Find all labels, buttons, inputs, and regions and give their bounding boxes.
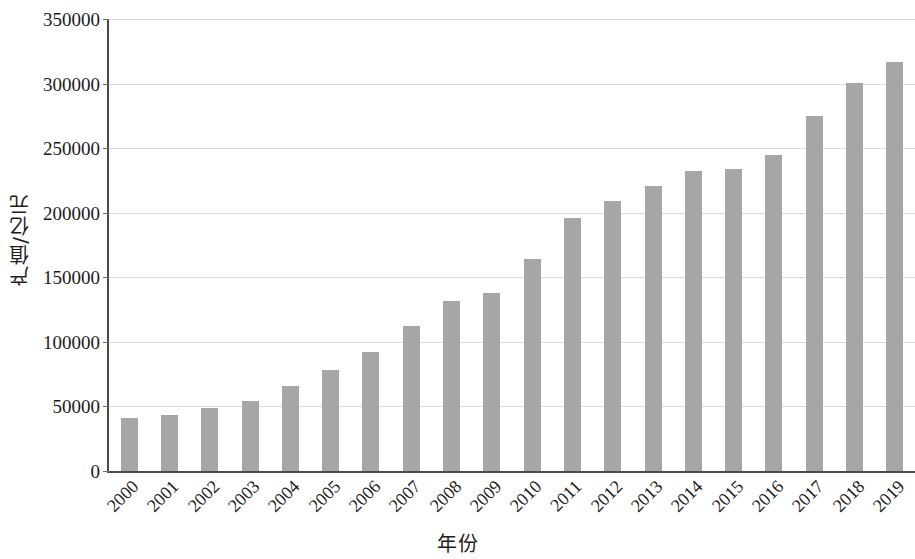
bar (886, 62, 903, 471)
x-axis-tick-label: 2017 (780, 477, 827, 524)
bar (524, 259, 541, 471)
bar (362, 352, 379, 471)
bar (201, 408, 218, 471)
bar (645, 186, 662, 471)
bar (846, 83, 863, 471)
bar (161, 415, 178, 471)
bar (806, 116, 823, 471)
x-axis-tick-label: 2011 (538, 477, 585, 524)
x-axis-tick-label: 2006 (337, 477, 384, 524)
x-axis-tick-label: 2019 (861, 477, 908, 524)
y-axis-tick-label: 50000 (53, 397, 101, 416)
bar (282, 386, 299, 471)
x-axis-tick-label: 2008 (418, 477, 465, 524)
x-axis-tick-label: 2000 (95, 477, 142, 524)
y-axis-tick-label: 100000 (43, 332, 100, 351)
x-axis-tick-labels: 2000200120022003200420052006200720082009… (107, 473, 913, 533)
bar-chart: 产值/亿元 0500001000001500002000002500003000… (0, 0, 915, 559)
y-axis-tick-mark (103, 471, 109, 472)
x-axis-tick-label: 2012 (579, 477, 626, 524)
y-axis-tick-label: 0 (91, 462, 101, 481)
x-axis-tick-label: 2018 (821, 477, 868, 524)
y-axis-tick-label: 150000 (43, 268, 100, 287)
bar (322, 370, 339, 471)
x-axis-tick-label: 2007 (377, 477, 424, 524)
plot-area (107, 19, 915, 473)
x-axis-tick-label: 2014 (659, 477, 706, 524)
y-axis-tick-label: 300000 (43, 74, 100, 93)
bar (765, 155, 782, 471)
bar (604, 201, 621, 471)
bars-container (109, 19, 915, 471)
bar (685, 171, 702, 471)
x-axis-title: 年份 (0, 528, 915, 557)
y-axis-title-text: 产值/亿元 (5, 194, 34, 286)
bar (483, 293, 500, 471)
y-axis-tick-label: 350000 (43, 10, 100, 29)
bar (564, 218, 581, 471)
bar (443, 301, 460, 471)
x-axis-tick-label: 2010 (498, 477, 545, 524)
y-axis-tick-labels: 0500001000001500002000002500003000003500… (36, 0, 100, 480)
x-axis-tick-label: 2016 (740, 477, 787, 524)
bar (725, 169, 742, 471)
bar (121, 418, 138, 471)
x-axis-tick-label: 2003 (216, 477, 263, 524)
x-axis-tick-label: 2009 (458, 477, 505, 524)
x-axis-tick-label: 2001 (135, 477, 182, 524)
y-axis-tick-label: 200000 (43, 203, 100, 222)
y-axis-tick-label: 250000 (43, 139, 100, 158)
bar (242, 401, 259, 471)
x-axis-tick-label: 2002 (176, 477, 223, 524)
x-axis-tick-label: 2004 (256, 477, 303, 524)
x-axis-tick-label: 2013 (619, 477, 666, 524)
x-axis-tick-label: 2005 (297, 477, 344, 524)
y-axis-title: 产值/亿元 (2, 0, 36, 480)
bar (403, 326, 420, 471)
x-axis-tick-label: 2015 (700, 477, 747, 524)
